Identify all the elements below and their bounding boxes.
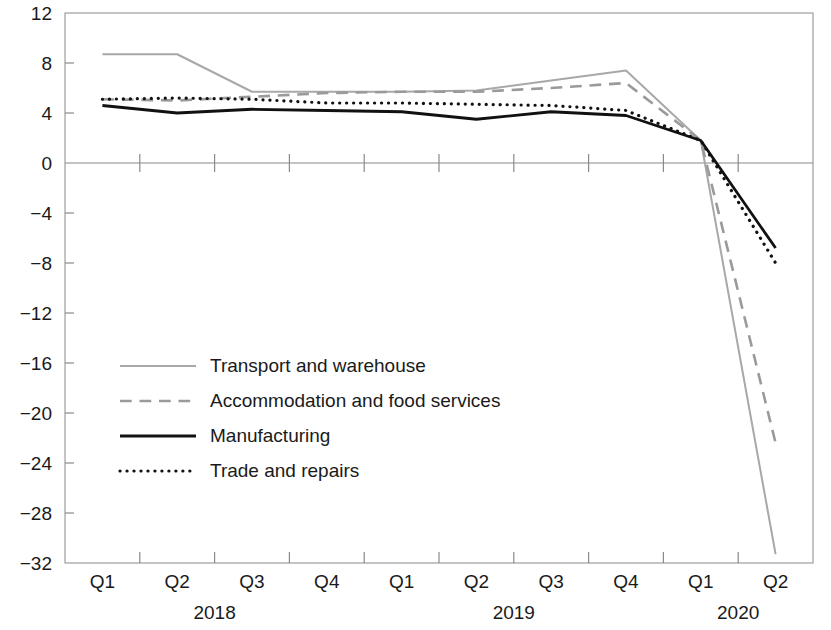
legend-label-0: Transport and warehouse [210,355,426,376]
legend-label-1: Accommodation and food services [210,390,500,411]
y-tick-label: −4 [30,203,52,224]
y-tick-label: −32 [20,553,52,574]
y-tick-label: −24 [20,453,53,474]
x-tick-label: Q1 [389,571,414,592]
x-tick-label: Q3 [539,571,564,592]
x-axis-year-label: 2020 [717,602,759,623]
x-axis-labels: Q1Q2Q3Q4Q1Q2Q3Q4Q1Q2 [90,571,789,592]
y-tick-label: −12 [20,303,52,324]
y-tick-label: 4 [41,103,52,124]
y-axis-ticks [65,63,74,513]
series-lines [102,54,775,554]
chart-canvas: 12840−4−8−12−16−20−24−28−32 Q1Q2Q3Q4Q1Q2… [0,0,831,630]
line-chart: 12840−4−8−12−16−20−24−28−32 Q1Q2Q3Q4Q1Q2… [0,0,831,630]
plot-border [65,13,813,563]
x-tick-label: Q2 [165,571,190,592]
y-tick-label: −16 [20,353,52,374]
y-tick-label: 8 [41,53,52,74]
series-line-1 [102,83,775,443]
x-tick-label: Q2 [464,571,489,592]
y-tick-label: 12 [31,3,52,24]
x-tick-label: Q2 [763,571,788,592]
x-tick-label: Q1 [688,571,713,592]
y-tick-label: −28 [20,503,52,524]
y-tick-label: 0 [41,153,52,174]
y-axis-labels: 12840−4−8−12−16−20−24−28−32 [20,3,53,574]
y-tick-label: −20 [20,403,52,424]
x-tick-label: Q4 [613,571,639,592]
chart-legend: Transport and warehouseAccommodation and… [120,355,500,481]
y-tick-label: −8 [30,253,52,274]
x-tick-label: Q4 [314,571,340,592]
x-axis-year-label: 2019 [493,602,535,623]
x-tick-label: Q1 [90,571,115,592]
series-line-3 [102,98,775,263]
legend-label-3: Trade and repairs [210,460,359,481]
plot-frame [65,13,813,563]
series-line-2 [102,106,775,249]
x-axis-year-labels: 201820192020 [193,602,759,623]
series-line-0 [102,54,775,554]
x-axis-year-label: 2018 [193,602,235,623]
legend-label-2: Manufacturing [210,425,330,446]
x-tick-label: Q3 [239,571,264,592]
